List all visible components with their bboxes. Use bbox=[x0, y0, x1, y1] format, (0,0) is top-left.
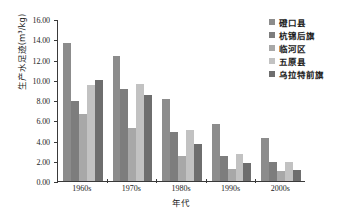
bar bbox=[194, 144, 202, 181]
bar bbox=[212, 124, 220, 181]
x-tick-mark bbox=[255, 179, 256, 183]
legend-label: 杭锦后旗 bbox=[279, 29, 315, 41]
bar bbox=[144, 95, 152, 181]
bar bbox=[285, 162, 293, 181]
x-axis-title-text: 年代 bbox=[172, 198, 190, 208]
y-tick-label: 12.00 bbox=[32, 56, 50, 65]
bar bbox=[95, 80, 103, 181]
x-tick-label: 1980s bbox=[171, 184, 190, 193]
bar-group-1990s bbox=[212, 20, 252, 181]
legend-swatch-icon bbox=[269, 58, 275, 64]
bar-group-1970s bbox=[113, 20, 153, 181]
x-tick-mark bbox=[206, 179, 207, 183]
bar-group-1960s bbox=[63, 20, 103, 181]
bar bbox=[228, 169, 236, 181]
x-tick-label: 1990s bbox=[221, 184, 240, 193]
bar bbox=[120, 89, 128, 181]
x-axis-title: 年代 bbox=[57, 196, 305, 208]
x-axis-tick-labels: 1960s1970s1980s1990s2000s bbox=[57, 183, 305, 197]
bar bbox=[113, 56, 121, 181]
legend-label: 磴口县 bbox=[279, 16, 306, 28]
bar bbox=[170, 132, 178, 181]
bar-group-1980s bbox=[162, 20, 202, 181]
chart-legend: 磴口县杭锦后旗临河区五原县乌拉特前旗 bbox=[269, 16, 361, 81]
legend-item-4[interactable]: 乌拉特前旗 bbox=[269, 68, 361, 80]
legend-swatch-icon bbox=[269, 32, 275, 38]
chart-figure: 生产水足迹(m³/kg) 0.002.004.006.008.0010.0012… bbox=[0, 0, 363, 217]
bar bbox=[243, 163, 251, 181]
legend-label: 五原县 bbox=[279, 55, 306, 67]
y-tick-label: 16.00 bbox=[32, 16, 50, 25]
x-tick-label: 2000s bbox=[271, 184, 290, 193]
y-tick-label: 10.00 bbox=[32, 76, 50, 85]
legend-swatch-icon bbox=[269, 71, 275, 77]
bar bbox=[71, 101, 79, 181]
x-tick-label: 1960s bbox=[72, 184, 91, 193]
legend-swatch-icon bbox=[269, 45, 275, 51]
legend-item-0[interactable]: 磴口县 bbox=[269, 16, 361, 28]
legend-swatch-icon bbox=[269, 19, 275, 25]
bar bbox=[79, 114, 87, 181]
bar bbox=[269, 162, 277, 181]
bar bbox=[178, 156, 186, 181]
bar bbox=[236, 154, 244, 181]
legend-label: 乌拉特前旗 bbox=[279, 68, 324, 80]
bar bbox=[293, 170, 301, 181]
y-tick-label: 4.00 bbox=[36, 137, 50, 146]
x-tick-mark bbox=[107, 179, 108, 183]
x-tick-mark bbox=[156, 179, 157, 183]
bar bbox=[186, 130, 194, 181]
bar bbox=[162, 99, 170, 181]
bar bbox=[87, 85, 95, 181]
legend-item-2[interactable]: 临河区 bbox=[269, 42, 361, 54]
bar bbox=[63, 43, 71, 181]
bar bbox=[136, 84, 144, 181]
y-tick-label: 14.00 bbox=[32, 36, 50, 45]
y-tick-label: 2.00 bbox=[36, 157, 50, 166]
y-axis-tick-labels: 0.002.004.006.008.0010.0012.0014.0016.00 bbox=[14, 20, 54, 182]
legend-item-1[interactable]: 杭锦后旗 bbox=[269, 29, 361, 41]
bar bbox=[128, 128, 136, 181]
y-tick-label: 8.00 bbox=[36, 97, 50, 106]
legend-label: 临河区 bbox=[279, 42, 306, 54]
y-tick-label: 0.00 bbox=[36, 178, 50, 187]
bar bbox=[220, 156, 228, 181]
x-tick-label: 1970s bbox=[122, 184, 141, 193]
bar bbox=[261, 138, 269, 181]
legend-item-3[interactable]: 五原县 bbox=[269, 55, 361, 67]
plot-area bbox=[57, 20, 305, 182]
bar bbox=[277, 171, 285, 181]
y-tick-label: 6.00 bbox=[36, 117, 50, 126]
